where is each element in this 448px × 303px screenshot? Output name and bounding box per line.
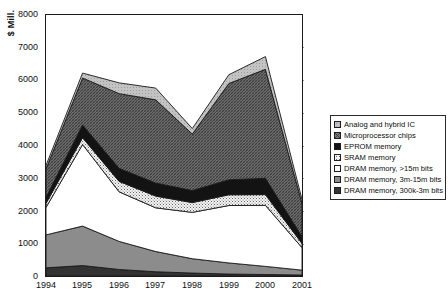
- chart-legend: Analog and hybrid IC Microprocessor chip…: [330, 115, 446, 200]
- y-tick-0: 0: [4, 272, 38, 281]
- legend-label: Microprocessor chips: [344, 132, 416, 140]
- y-tick-5000: 5000: [4, 108, 38, 117]
- y-tick-7000: 7000: [4, 43, 38, 52]
- legend-swatch-solid-black: [334, 143, 341, 150]
- legend-swatch-solid-mid-gray: [334, 176, 341, 183]
- x-tick-1995: 1995: [62, 281, 102, 290]
- area-bands: [46, 57, 302, 276]
- legend-item-eprom-memory[interactable]: EPROM memory: [334, 141, 442, 152]
- y-tick-8000: 8000: [4, 10, 38, 19]
- x-tick-1999: 1999: [209, 281, 249, 290]
- stacked-area-svg: [46, 15, 302, 276]
- legend-item-analog-and-hybrid-ic[interactable]: Analog and hybrid IC: [334, 119, 442, 130]
- legend-label: EPROM memory: [344, 143, 401, 151]
- legend-item-dram-over-15m-bits[interactable]: DRAM memory, >15m bits: [334, 163, 442, 174]
- y-tick-3000: 3000: [4, 174, 38, 183]
- y-tick-1000: 1000: [4, 239, 38, 248]
- y-tick-6000: 6000: [4, 75, 38, 84]
- x-tick-2001: 2001: [282, 281, 322, 290]
- legend-label: Analog and hybrid IC: [344, 121, 415, 129]
- x-tick-1997: 1997: [135, 281, 175, 290]
- legend-item-dram-3m-15m-bits[interactable]: DRAM memory, 3m-15m bits: [334, 174, 442, 185]
- x-tick-1998: 1998: [172, 281, 212, 290]
- legend-swatch-light-gray: [334, 121, 341, 128]
- y-tick-2000: 2000: [4, 207, 38, 216]
- legend-swatch-solid-white: [334, 165, 341, 172]
- y-tick-4000: 4000: [4, 141, 38, 150]
- legend-swatch-fine-dotted: [334, 154, 341, 161]
- legend-label: SRAM memory: [344, 154, 395, 162]
- legend-item-dram-300k-3m-bits[interactable]: DRAM memory, 300k-3m bits: [334, 185, 442, 196]
- legend-item-microprocessor-chips[interactable]: Microprocessor chips: [334, 130, 442, 141]
- x-tick-2000: 2000: [245, 281, 285, 290]
- legend-label: DRAM memory, 3m-15m bits: [344, 176, 441, 184]
- chart-screenshot: $ Mill. 8000 7000 6000 5000 4000 3000 20…: [0, 0, 448, 303]
- legend-swatch-solid-dark: [334, 187, 341, 194]
- legend-item-sram-memory[interactable]: SRAM memory: [334, 152, 442, 163]
- plot-area: [45, 14, 303, 277]
- legend-label: DRAM memory, >15m bits: [344, 165, 433, 173]
- x-tick-1994: 1994: [26, 281, 66, 290]
- legend-label: DRAM memory, 300k-3m bits: [344, 187, 443, 195]
- legend-swatch-dense-crosshatch: [334, 132, 341, 139]
- x-tick-1996: 1996: [99, 281, 139, 290]
